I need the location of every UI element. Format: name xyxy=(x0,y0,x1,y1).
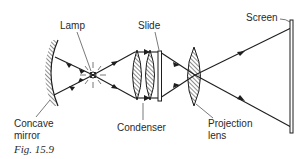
projection-lens-label-line1: Projection xyxy=(208,118,252,129)
slide-label: Slide xyxy=(138,20,160,31)
slide xyxy=(158,51,162,101)
projection-lens-label-line2: lens xyxy=(208,130,226,141)
figure-caption: Fig. 15.9 xyxy=(14,143,54,155)
condenser-lenses xyxy=(133,50,155,100)
rays-mirror xyxy=(54,57,93,95)
condenser-label: Condenser xyxy=(117,122,166,133)
projector-diagram: Lamp Slide Screen Concave mirror Condens… xyxy=(0,0,306,159)
concave-mirror xyxy=(45,40,58,106)
concave-mirror-label-line2: mirror xyxy=(14,130,40,141)
leader-lines xyxy=(36,19,290,120)
screen-label: Screen xyxy=(246,12,278,23)
lamp-label: Lamp xyxy=(60,20,85,31)
projection-lens xyxy=(188,47,201,106)
concave-mirror-label-line1: Concave xyxy=(14,118,53,129)
screen xyxy=(290,20,293,133)
